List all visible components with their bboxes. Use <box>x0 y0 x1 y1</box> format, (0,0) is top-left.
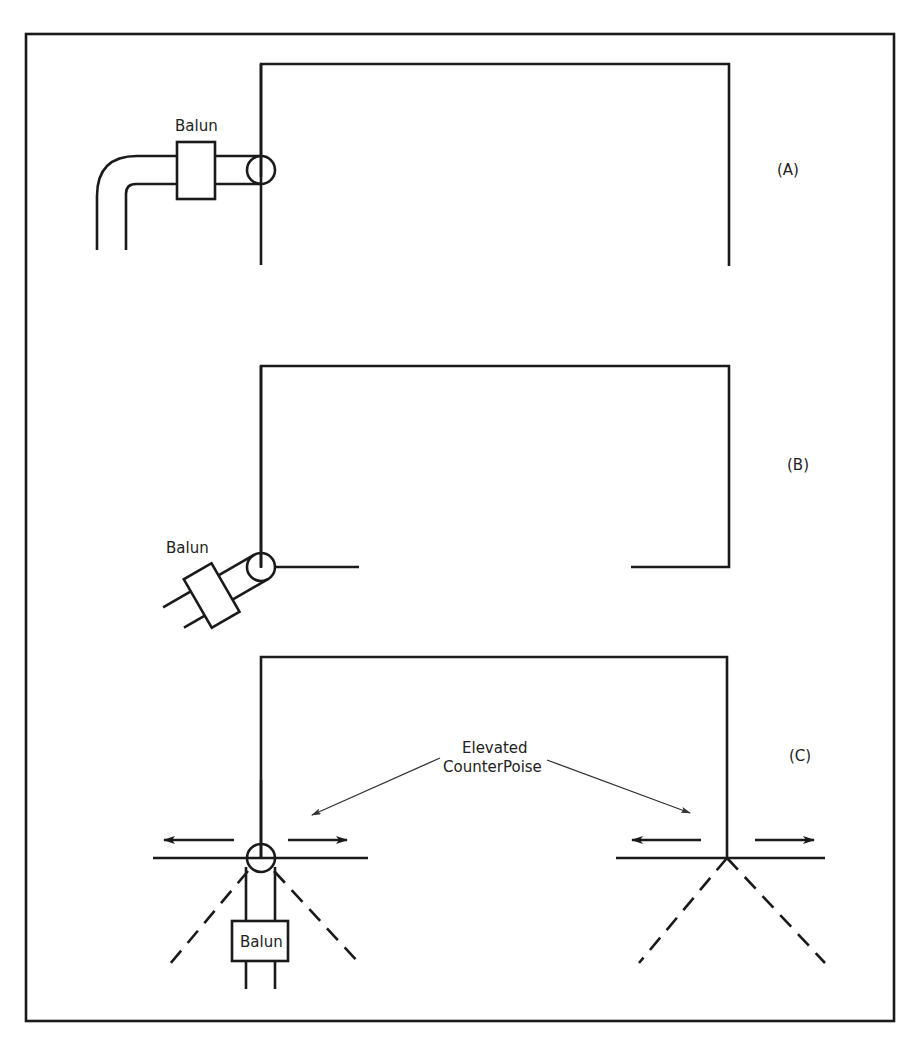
panel-b: Balun (B) <box>156 366 809 644</box>
panel-a-balun <box>177 142 215 199</box>
panel-a-loop-antenna <box>261 64 729 266</box>
panel-c-balun-label: Balun <box>240 933 283 951</box>
antenna-diagram: Balun (A) Balun (B) Balun <box>0 0 919 1042</box>
figure-frame <box>26 34 894 1021</box>
panel-b-loop-antenna <box>261 366 729 568</box>
panel-a-label: (A) <box>777 161 799 179</box>
panel-b-balun-label: Balun <box>166 539 209 557</box>
callout-arrow-left <box>312 758 440 815</box>
panel-c-label: (C) <box>789 747 811 765</box>
callout-arrow-right <box>547 760 690 813</box>
panel-a-coax <box>97 156 177 250</box>
panel-b-balun <box>184 563 240 627</box>
panel-a: Balun (A) <box>97 64 799 266</box>
callout-line2: CounterPoise <box>443 758 542 776</box>
panel-b-label: (B) <box>787 456 809 474</box>
callout-line1: Elevated <box>462 739 528 757</box>
panel-a-balun-label: Balun <box>175 117 218 135</box>
panel-c: Balun Elevated CounterPoise (C) <box>153 657 825 989</box>
